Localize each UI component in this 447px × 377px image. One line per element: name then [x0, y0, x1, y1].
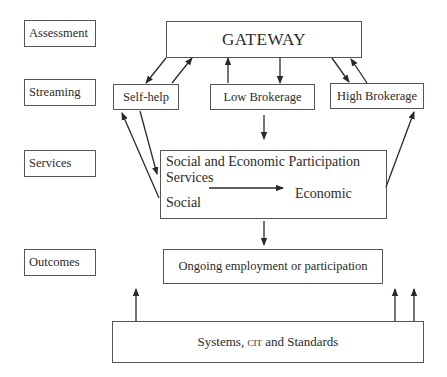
outcome-label: Ongoing employment or participation — [178, 259, 367, 274]
arrow-services-to-highbrokerage — [386, 112, 414, 187]
services-node: Social and Economic Participation Servic… — [160, 150, 387, 219]
systems-suffix: and Standards — [262, 334, 339, 349]
social-label: Social — [166, 195, 201, 211]
low-brokerage-node: Low Brokerage — [210, 84, 315, 110]
outcome-node: Ongoing employment or participation — [163, 249, 383, 284]
stage-label-text: Outcomes — [29, 255, 80, 270]
stage-label-services: Services — [24, 150, 96, 177]
arrow-selfhelp-to-services — [140, 111, 157, 174]
self-help-node: Self-help — [113, 84, 179, 110]
systems-prefix: Systems, — [198, 334, 248, 349]
gateway-node: GATEWAY — [166, 21, 362, 58]
self-help-label: Self-help — [123, 90, 169, 105]
stage-label-text: Assessment — [29, 26, 88, 41]
stage-label-text: Services — [29, 156, 71, 171]
arrow-selfhelp-to-gateway — [172, 58, 192, 83]
stage-label-outcomes: Outcomes — [24, 249, 96, 276]
arrow-gateway-to-selfhelp — [146, 58, 166, 83]
arrow-highbrokerage-to-gateway — [351, 59, 367, 83]
low-brokerage-label: Low Brokerage — [223, 90, 301, 105]
stage-label-text: Streaming — [29, 85, 80, 100]
services-title-line1: Social and Economic Participation — [166, 154, 360, 170]
economic-label: Economic — [295, 186, 352, 202]
services-title-line2: Services — [166, 170, 360, 186]
arrow-gateway-to-highbrokerage — [332, 58, 349, 82]
stage-label-streaming: Streaming — [24, 79, 96, 106]
arrow-services-to-selfhelp — [122, 113, 159, 198]
stage-label-assessment: Assessment — [24, 20, 96, 47]
gateway-label: GATEWAY — [222, 30, 306, 50]
systems-cit: CIT — [247, 334, 262, 349]
systems-node: Systems, CIT and Standards — [112, 321, 424, 363]
high-brokerage-node: High Brokerage — [330, 83, 424, 109]
services-title: Social and Economic Participation Servic… — [166, 154, 360, 186]
high-brokerage-label: High Brokerage — [337, 89, 417, 104]
systems-label: Systems, CIT and Standards — [198, 334, 339, 350]
